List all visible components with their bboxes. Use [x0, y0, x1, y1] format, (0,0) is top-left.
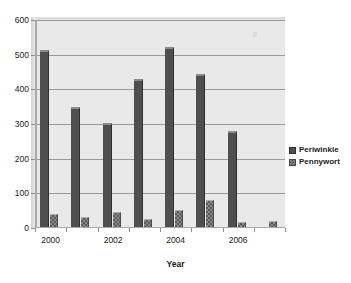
x-axis: 2000200220042006 — [35, 228, 285, 250]
bar-pennywort-2001 — [81, 217, 89, 227]
bar-periwinkle-2002 — [103, 123, 112, 227]
bar-periwinkle-2000 — [40, 50, 49, 227]
legend-item-pennywort[interactable]: Pennywort — [289, 158, 349, 166]
scan-speck — [253, 32, 257, 37]
x-tick-mark — [35, 228, 36, 232]
x-tick-mark — [160, 228, 161, 232]
x-tick-label-2002: 2002 — [104, 235, 123, 245]
x-tick-mark — [66, 228, 67, 232]
bar-pennywort-2003 — [144, 219, 152, 227]
x-tick-label-2006: 2006 — [229, 235, 248, 245]
bar-periwinkle-2003 — [134, 79, 143, 227]
legend-label-pennywort: Pennywort — [299, 158, 340, 166]
x-tick-mark — [129, 228, 130, 232]
bar-periwinkle-2006 — [228, 131, 237, 227]
x-axis-title: Year — [0, 259, 351, 269]
y-tick-label: 600 — [15, 16, 29, 25]
bar-pennywort-2000 — [50, 214, 58, 227]
x-tick-label-2000: 2000 — [41, 235, 60, 245]
x-tick-mark — [191, 228, 192, 232]
y-tick-label: 400 — [15, 85, 29, 94]
x-tick-mark — [285, 228, 286, 232]
bar-pennywort-2006 — [238, 222, 246, 227]
x-tick-mark — [223, 228, 224, 232]
y-tick-label: 100 — [15, 189, 29, 198]
legend-item-periwinkle[interactable]: Periwinkle — [289, 146, 349, 154]
bar-periwinkle-2004 — [165, 47, 174, 227]
bar-chart: 0100200300400500600 2000200220042006 Yea… — [0, 0, 351, 283]
y-tick-label: 300 — [15, 120, 29, 129]
bar-pennywort-2007 — [269, 221, 277, 227]
plot-area — [35, 20, 285, 228]
bar-periwinkle-2005 — [196, 74, 205, 227]
bar-pennywort-2002 — [113, 212, 121, 227]
y-tick-label: 500 — [15, 50, 29, 59]
bar-periwinkle-2001 — [71, 107, 80, 227]
x-tick-mark — [98, 228, 99, 232]
bar-pennywort-2004 — [175, 210, 183, 227]
x-tick-label-2004: 2004 — [166, 235, 185, 245]
legend-label-periwinkle: Periwinkle — [299, 146, 339, 154]
y-tick-label: 200 — [15, 154, 29, 163]
legend-swatch-icon-periwinkle — [289, 147, 296, 154]
x-tick-mark — [254, 228, 255, 232]
y-tick-label: 0 — [24, 224, 29, 233]
bar-pennywort-2005 — [206, 200, 214, 227]
legend-swatch-icon-pennywort — [289, 159, 296, 166]
chart-legend: Periwinkle Pennywort — [289, 146, 349, 170]
bars-layer — [37, 20, 285, 227]
y-axis: 0100200300400500600 — [0, 0, 35, 248]
